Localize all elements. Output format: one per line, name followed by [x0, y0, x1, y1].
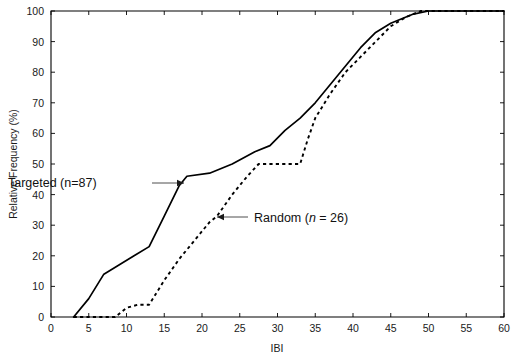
x-tick-label-60: 60 — [498, 322, 510, 334]
chart-canvas: 051015202530354045505560 010203040506070… — [0, 0, 520, 358]
x-axis-title: IBI — [271, 342, 284, 354]
y-tick-label-80: 80 — [32, 66, 44, 78]
x-tick-label-0: 0 — [48, 322, 54, 334]
y-tick-label-10: 10 — [32, 280, 44, 292]
x-tick-label-5: 5 — [86, 322, 92, 334]
x-tick-label-10: 10 — [121, 322, 133, 334]
y-tick-label-100: 100 — [26, 5, 44, 17]
y-tick-label-90: 90 — [32, 36, 44, 48]
y-tick-label-60: 60 — [32, 127, 44, 139]
targeted-annotation-label: Targeted (n=87) — [8, 176, 97, 190]
x-tick-label-20: 20 — [196, 322, 208, 334]
x-tick-label-25: 25 — [234, 322, 246, 334]
x-tick-label-15: 15 — [158, 322, 170, 334]
y-axis-title: Relative Frequency (%) — [7, 109, 19, 219]
chart-figure: 051015202530354045505560 010203040506070… — [0, 0, 520, 358]
x-tick-label-50: 50 — [423, 322, 435, 334]
x-tick-label-35: 35 — [309, 322, 321, 334]
y-tick-label-30: 30 — [32, 219, 44, 231]
x-axis-tick-labels: 051015202530354045505560 — [48, 322, 510, 334]
y-tick-label-0: 0 — [38, 311, 44, 323]
y-tick-label-70: 70 — [32, 97, 44, 109]
x-tick-label-40: 40 — [347, 322, 359, 334]
y-tick-label-40: 40 — [32, 189, 44, 201]
targeted-annotation: Targeted (n=87) — [8, 176, 184, 190]
x-tick-label-55: 55 — [460, 322, 472, 334]
data-series-group — [74, 11, 504, 317]
random-annotation-label: Random (n = 26) — [254, 211, 348, 225]
x-tick-label-30: 30 — [272, 322, 284, 334]
x-tick-label-45: 45 — [385, 322, 397, 334]
y-tick-label-50: 50 — [32, 158, 44, 170]
annotations-group: Targeted (n=87)Random (n = 26) — [8, 176, 348, 225]
y-tick-label-20: 20 — [32, 250, 44, 262]
random-annotation: Random (n = 26) — [217, 211, 348, 225]
y-axis-tick-labels: 0102030405060708090100 — [26, 5, 44, 323]
series-line-random — [74, 11, 504, 317]
